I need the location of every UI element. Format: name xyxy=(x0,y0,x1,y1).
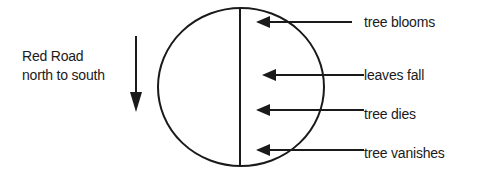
event-arrow-dies xyxy=(256,104,364,116)
event-label-vanishes: tree vanishes xyxy=(364,145,445,161)
road-title: Red Road xyxy=(22,47,105,66)
event-arrow-leaves-fall xyxy=(262,69,364,81)
arrow-down-icon xyxy=(130,36,142,112)
tree-lifecycle-diagram: Red Road north to south tree blooms leav… xyxy=(0,0,482,174)
event-arrow-blooms xyxy=(256,16,352,28)
road-subtitle: north to south xyxy=(22,66,105,85)
event-arrow-vanishes xyxy=(256,144,364,156)
road-label: Red Road north to south xyxy=(22,47,105,85)
event-label-blooms: tree blooms xyxy=(364,14,435,30)
event-label-dies: tree dies xyxy=(364,106,416,122)
event-label-leaves-fall: leaves fall xyxy=(364,67,424,83)
